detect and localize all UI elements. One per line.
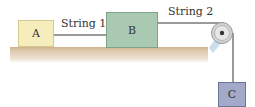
table-surface [10, 47, 208, 62]
block-b: B [106, 12, 158, 48]
block-c: C [218, 82, 246, 107]
block-c-label: C [228, 88, 236, 101]
string-1-label: String 1 [61, 17, 106, 30]
block-a-label: A [32, 27, 40, 40]
string-1 [54, 34, 106, 36]
block-a: A [18, 20, 54, 47]
block-b-label: B [128, 24, 136, 37]
rope-to-c [232, 33, 234, 82]
